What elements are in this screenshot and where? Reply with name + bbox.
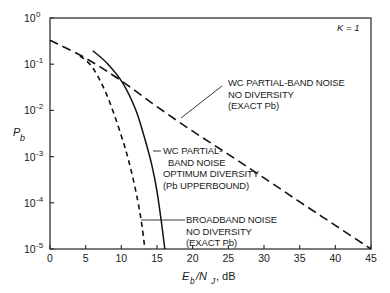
x-tick-label: 45 bbox=[365, 252, 377, 264]
svg-text:(EXACT Pb): (EXACT Pb) bbox=[228, 100, 279, 111]
svg-text:(EXACT Pb): (EXACT Pb) bbox=[186, 237, 237, 248]
x-tick-label: 40 bbox=[329, 252, 341, 264]
y-tick-label: 100 bbox=[24, 10, 41, 24]
svg-text:BAND NOISE: BAND NOISE bbox=[168, 157, 226, 168]
svg-text:-4: -4 bbox=[36, 195, 44, 204]
broadband-label: BROADBAND NOISENO DIVERSITY(EXACT Pb) bbox=[186, 214, 277, 248]
x-tick-label: 15 bbox=[151, 252, 163, 264]
svg-text:BROADBAND NOISE: BROADBAND NOISE bbox=[186, 214, 277, 225]
svg-text:10: 10 bbox=[24, 58, 36, 70]
svg-text:-2: -2 bbox=[36, 102, 44, 111]
svg-text:10: 10 bbox=[24, 12, 36, 24]
x-tick-label: 10 bbox=[115, 252, 127, 264]
svg-text:NO DIVERSITY: NO DIVERSITY bbox=[228, 89, 295, 100]
y-tick-label: 10-2 bbox=[24, 102, 44, 116]
svg-text:-5: -5 bbox=[36, 241, 44, 250]
svg-text:E: E bbox=[182, 270, 190, 282]
svg-text:WC PARTIAL-BAND NOISE: WC PARTIAL-BAND NOISE bbox=[228, 77, 345, 88]
x-tick-label: 25 bbox=[222, 252, 234, 264]
y-tick-label: 10-1 bbox=[24, 56, 44, 70]
x-tick-label: 20 bbox=[187, 252, 199, 264]
x-tick-label: 35 bbox=[294, 252, 306, 264]
curve-annotations: WC PARTIAL-BAND NOISENO DIVERSITY(EXACT … bbox=[141, 77, 345, 248]
svg-text:10: 10 bbox=[24, 197, 36, 209]
wc-optimum-diversity-label: WC PARTIAL-BAND NOISEOPTIMUM DIVERSITY(P… bbox=[163, 145, 260, 191]
svg-text:NO DIVERSITY: NO DIVERSITY bbox=[186, 226, 253, 237]
x-tick-label: 30 bbox=[258, 252, 270, 264]
y-tick-label: 10-3 bbox=[24, 149, 44, 163]
svg-text:(Pb UPPERBOUND): (Pb UPPERBOUND) bbox=[163, 180, 249, 191]
svg-text:10: 10 bbox=[24, 243, 36, 255]
wc-no-diversity-label: WC PARTIAL-BAND NOISENO DIVERSITY(EXACT … bbox=[228, 77, 345, 111]
chart: 10010-110-210-310-410-5 0510152025303540… bbox=[0, 0, 390, 293]
svg-text:, dB: , dB bbox=[216, 270, 236, 282]
svg-text:0: 0 bbox=[36, 10, 41, 19]
svg-text:/N: /N bbox=[195, 270, 207, 282]
y-tick-label: 10-5 bbox=[24, 241, 44, 255]
x-axis-label: E b /N J , dB bbox=[182, 270, 236, 286]
wc-optimum-diversity-curve bbox=[93, 51, 165, 249]
svg-text:10: 10 bbox=[24, 104, 36, 116]
svg-text:-1: -1 bbox=[36, 56, 44, 65]
svg-text:10: 10 bbox=[24, 151, 36, 163]
leader-line bbox=[181, 86, 222, 118]
k-parameter-label: K = 1 bbox=[337, 22, 359, 33]
broadband-curve bbox=[80, 56, 145, 249]
svg-text:OPTIMUM DIVERSITY: OPTIMUM DIVERSITY bbox=[163, 168, 260, 179]
svg-text:b: b bbox=[190, 276, 195, 286]
svg-text:-3: -3 bbox=[36, 149, 44, 158]
x-tick-label: 5 bbox=[83, 252, 89, 264]
y-tick-label: 10-4 bbox=[24, 195, 44, 209]
y-axis-label: P b bbox=[13, 126, 25, 143]
svg-text:b: b bbox=[20, 133, 25, 143]
svg-text:WC PARTIAL-: WC PARTIAL- bbox=[163, 145, 222, 156]
x-tick-label: 0 bbox=[47, 252, 53, 264]
